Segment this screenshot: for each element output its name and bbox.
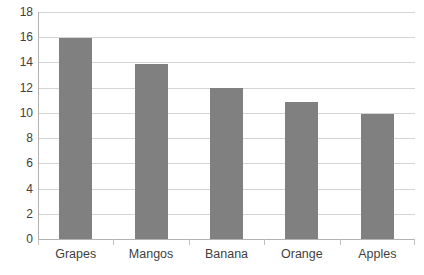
category-tick <box>38 239 39 245</box>
plot-area <box>38 12 415 239</box>
gridline <box>38 62 415 63</box>
y-tick-label: 14 <box>0 55 33 69</box>
bar <box>285 102 318 239</box>
category-tick <box>340 239 341 245</box>
y-tick-label: 2 <box>0 207 33 221</box>
bar <box>59 38 92 239</box>
y-tick-label: 8 <box>0 131 33 145</box>
y-tick-label: 6 <box>0 156 33 170</box>
y-tick-label: 10 <box>0 106 33 120</box>
bar <box>361 114 394 239</box>
y-tick-label: 12 <box>0 81 33 95</box>
x-tick-label: Apples <box>340 247 415 261</box>
category-tick <box>113 239 114 245</box>
y-axis-tick-labels: 024681012141618 <box>0 0 33 275</box>
bar <box>135 64 168 239</box>
y-tick-label: 18 <box>0 5 33 19</box>
x-axis-tick-labels: GrapesMangosBananaOrangeApples <box>38 247 415 271</box>
bar <box>210 88 243 239</box>
y-tick-label: 16 <box>0 30 33 44</box>
y-axis-line <box>38 12 39 239</box>
gridline <box>38 37 415 38</box>
gridline <box>38 12 415 13</box>
x-tick-label: Orange <box>264 247 339 261</box>
y-tick-label: 4 <box>0 182 33 196</box>
category-tick <box>414 239 415 245</box>
x-tick-label: Grapes <box>38 247 113 261</box>
x-tick-label: Mangos <box>113 247 188 261</box>
category-tick <box>264 239 265 245</box>
y-tick-label: 0 <box>0 232 33 246</box>
x-tick-label: Banana <box>189 247 264 261</box>
category-tick <box>189 239 190 245</box>
bar-chart: 024681012141618 GrapesMangosBananaOrange… <box>0 0 424 275</box>
x-axis-category-ticks <box>38 239 415 245</box>
